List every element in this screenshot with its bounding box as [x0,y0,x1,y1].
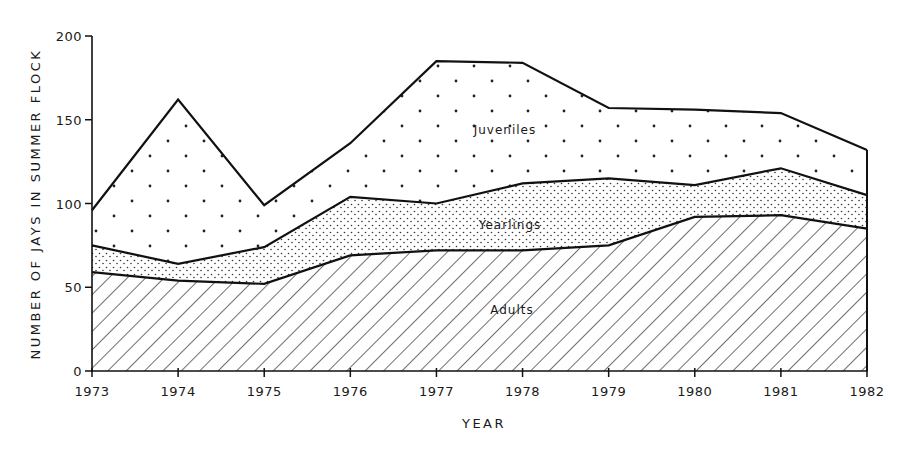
x-ticks: 1973197419751976197719781979198019811982 [74,368,884,399]
x-tick-label: 1979 [591,384,626,399]
stacked-area-chart: 050100150200 197319741975197619771978197… [0,0,909,452]
x-axis-title: YEAR [461,416,506,431]
x-tick-label: 1978 [505,384,540,399]
y-tick-label: 0 [73,364,82,379]
x-tick-label: 1973 [74,384,109,399]
adults-label: Adults [490,303,534,317]
x-tick-label: 1975 [247,384,282,399]
y-tick-label: 100 [56,197,82,212]
x-tick-label: 1974 [161,384,196,399]
x-tick-label: 1977 [419,384,454,399]
juveniles-label: Juveniles [473,123,537,137]
x-tick-label: 1981 [763,384,798,399]
x-tick-label: 1976 [333,384,368,399]
plot-areas [92,61,867,371]
yearlings-label: Yearlings [478,218,542,232]
y-tick-label: 150 [56,113,82,128]
x-tick-label: 1982 [849,384,884,399]
y-tick-label: 50 [64,280,82,295]
y-axis-title: NUMBER OF JAYS IN SUMMER FLOCK [28,49,43,360]
y-tick-label: 200 [56,29,82,44]
x-tick-label: 1980 [677,384,712,399]
y-ticks: 050100150200 [56,29,92,379]
